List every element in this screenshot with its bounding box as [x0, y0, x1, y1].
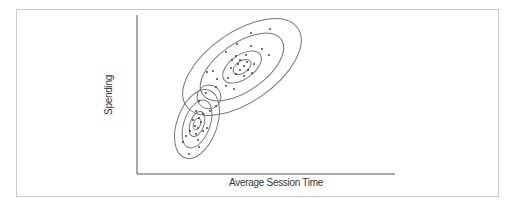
data-point	[239, 69, 241, 71]
data-point	[230, 67, 232, 69]
data-point	[189, 130, 191, 132]
cluster-contours	[166, 0, 318, 165]
data-point	[215, 105, 217, 107]
data-point	[239, 59, 241, 61]
cluster-lower-contour-1	[176, 96, 218, 152]
data-point	[235, 55, 237, 57]
cluster-upper-contour-3	[230, 56, 253, 77]
data-point	[182, 141, 184, 143]
axes	[137, 15, 395, 174]
data-point	[198, 146, 200, 148]
chart-plot-area	[0, 0, 513, 204]
data-point	[251, 72, 253, 74]
data-point	[235, 73, 237, 75]
data-point	[195, 133, 197, 135]
data-point	[233, 88, 235, 90]
data-point	[243, 75, 245, 77]
data-point	[245, 54, 247, 56]
data-point	[198, 117, 200, 119]
data-point	[185, 135, 187, 137]
data-point	[216, 78, 218, 80]
data-point	[212, 70, 214, 72]
data-point	[197, 127, 199, 129]
data-point	[243, 65, 245, 67]
data-point	[202, 113, 204, 115]
data-point	[195, 110, 197, 112]
data-point	[200, 121, 202, 123]
data-point	[250, 32, 252, 34]
data-point	[225, 85, 227, 87]
data-point	[231, 59, 233, 61]
data-point	[268, 54, 270, 56]
y-axis-label: Spending	[103, 65, 114, 125]
data-point	[215, 86, 217, 88]
data-point	[250, 45, 252, 47]
data-point	[237, 63, 239, 65]
data-point	[206, 127, 208, 129]
data-point	[253, 63, 255, 65]
data-point	[192, 119, 194, 121]
data-point	[227, 77, 229, 79]
data-point	[197, 139, 199, 141]
data-point	[236, 43, 238, 45]
data-point	[194, 125, 196, 127]
data-point	[247, 69, 249, 71]
data-point	[225, 51, 227, 53]
x-axis-label: Average Session Time	[226, 177, 326, 188]
data-point	[206, 71, 208, 73]
data-point	[188, 153, 190, 155]
cluster-upper-contour-2	[217, 45, 267, 90]
data-point	[205, 92, 207, 94]
cluster-upper-contour-0	[166, 0, 318, 135]
data-point	[202, 130, 204, 132]
data-point	[198, 100, 200, 102]
data-point	[261, 48, 263, 50]
data-point	[246, 61, 248, 63]
data-point	[269, 28, 271, 30]
data-point	[209, 110, 211, 112]
overlap-marker-circle	[197, 85, 221, 109]
